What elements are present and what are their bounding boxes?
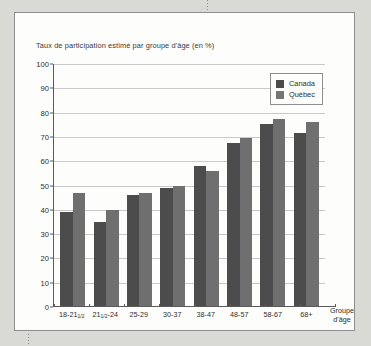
- x-axis-tick-mark-3: [159, 304, 160, 308]
- bar-canada-4: [194, 166, 207, 307]
- legend-item-canada: Canada: [276, 78, 315, 89]
- chart-card: Taux de participation estimé par groupe …: [14, 12, 355, 331]
- legend-label-quebec: Québec: [289, 90, 315, 99]
- x-axis-labels: 18-211/2211/2-2425-2930-3738-4748-5758-6…: [53, 310, 325, 319]
- y-axis-tick-50: 50: [41, 181, 49, 190]
- bar-canada-0: [60, 212, 73, 307]
- y-axis-tick-mark-70: [50, 136, 54, 137]
- y-axis-tick-mark-60: [50, 161, 54, 162]
- y-axis-tick-mark-90: [50, 88, 54, 89]
- gridline-0: [54, 307, 325, 308]
- y-axis-tick-70: 70: [41, 132, 49, 141]
- bar-qubec-5: [240, 138, 253, 307]
- y-axis-tick-10: 10: [41, 278, 49, 287]
- x-axis-label-0: 18-211/2: [57, 310, 87, 319]
- x-axis-title: Groupe d'âge: [330, 306, 354, 324]
- bar-qubec-6: [273, 119, 286, 307]
- x-axis-tick-mark-4: [195, 304, 196, 308]
- x-axis-title-line1: Groupe: [330, 306, 354, 315]
- y-axis-tick-80: 80: [41, 108, 49, 117]
- x-axis-tick-mark-0: [54, 304, 55, 308]
- y-axis-tick-mark-10: [50, 282, 54, 283]
- x-axis-tick-mark-2: [124, 304, 125, 308]
- x-axis-label-2: 25-29: [124, 310, 154, 319]
- bar-qubec-7: [306, 122, 319, 307]
- x-axis-label-4: 38-47: [191, 310, 221, 319]
- bar-canada-5: [227, 143, 240, 307]
- x-axis-tick-mark-1: [89, 304, 90, 308]
- x-axis-tick-mark-5: [230, 304, 231, 308]
- bar-qubec-3: [173, 186, 186, 308]
- y-axis-tick-20: 20: [41, 254, 49, 263]
- bar-qubec-1: [106, 210, 119, 307]
- legend-item-quebec: Québec: [276, 89, 315, 100]
- bar-qubec-2: [139, 193, 152, 307]
- bar-group: [60, 64, 85, 307]
- y-axis-tick-0: 0: [45, 303, 49, 312]
- chart-legend: Canada Québec: [270, 73, 323, 105]
- crop-mark-top: [207, 0, 208, 11]
- bar-qubec-4: [206, 171, 219, 307]
- bar-group: [127, 64, 152, 307]
- x-axis-tick-mark-6: [265, 304, 266, 308]
- x-axis-title-line2: d'âge: [330, 315, 354, 324]
- bar-canada-6: [260, 124, 273, 307]
- y-axis-tick-mark-80: [50, 112, 54, 113]
- chart-title: Taux de participation estimé par groupe …: [36, 41, 214, 50]
- bar-canada-1: [94, 222, 107, 307]
- legend-swatch-quebec: [276, 91, 284, 99]
- x-axis-label-3: 30-37: [157, 310, 187, 319]
- bar-group: [94, 64, 119, 307]
- y-axis-tick-90: 90: [41, 84, 49, 93]
- crop-mark-bottom: [28, 334, 29, 346]
- y-axis-tick-60: 60: [41, 157, 49, 166]
- x-axis-label-1: 211/2-24: [90, 310, 120, 319]
- bar-canada-7: [294, 133, 307, 307]
- x-axis-label-5: 48-57: [224, 310, 254, 319]
- y-axis-tick-mark-30: [50, 234, 54, 235]
- bar-group: [160, 64, 185, 307]
- x-axis-tick-mark-7: [300, 304, 301, 308]
- y-axis-tick-100: 100: [36, 60, 49, 69]
- y-axis-tick-mark-0: [50, 307, 54, 308]
- y-axis-tick-30: 30: [41, 230, 49, 239]
- x-axis-label-6: 58-67: [258, 310, 288, 319]
- legend-swatch-canada: [276, 80, 284, 88]
- legend-label-canada: Canada: [289, 79, 315, 88]
- x-axis-line: [54, 306, 335, 307]
- y-axis-tick-mark-50: [50, 185, 54, 186]
- bar-qubec-0: [73, 193, 86, 307]
- y-axis-tick-40: 40: [41, 205, 49, 214]
- y-axis-tick-mark-100: [50, 64, 54, 65]
- y-axis-tick-mark-40: [50, 209, 54, 210]
- bar-group: [194, 64, 219, 307]
- y-axis-tick-mark-20: [50, 258, 54, 259]
- x-axis-label-7: 68+: [291, 310, 321, 319]
- bar-canada-2: [127, 195, 140, 307]
- bar-canada-3: [160, 188, 173, 307]
- bar-group: [227, 64, 252, 307]
